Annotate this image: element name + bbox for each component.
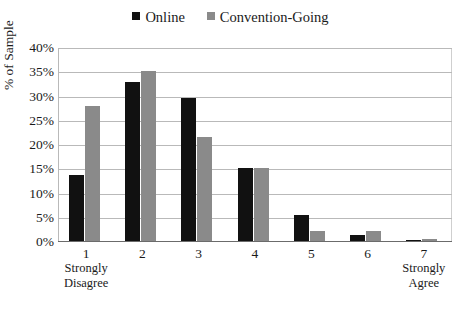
x-axis-tick-label-6: 6	[339, 246, 395, 261]
x-axis-sublabel-7-line1: Strongly	[396, 261, 452, 276]
bar-online-4	[238, 168, 253, 241]
legend-label-convention-going: Convention-Going	[220, 10, 329, 25]
x-axis-sublabel-7-line2: Agree	[396, 276, 452, 291]
bar-chart: Online Convention-Going % of Sample 40%3…	[0, 0, 461, 312]
bar-convention-going-3	[197, 137, 212, 241]
x-axis-group-4: 4	[227, 246, 283, 261]
bar-online-5	[294, 215, 309, 241]
x-axis-tick-label-3: 3	[171, 246, 227, 261]
black-square-marker-icon	[132, 12, 140, 20]
x-axis-tick-label-1: 1	[58, 246, 114, 261]
y-axis-tick-2: 30%	[16, 90, 54, 104]
plot-area	[58, 48, 452, 242]
y-axis-tick-8: 0%	[16, 235, 54, 249]
bar-online-7	[406, 240, 421, 241]
y-axis-tick-7: 5%	[16, 211, 54, 225]
gridline-30%	[58, 97, 452, 98]
y-axis-tick-5: 15%	[16, 162, 54, 176]
legend-label-online: Online	[145, 10, 184, 25]
x-axis-tick-label-4: 4	[227, 246, 283, 261]
y-axis-tick-6: 10%	[16, 187, 54, 201]
x-axis-line	[58, 241, 452, 242]
gridline-20%	[58, 145, 452, 146]
gray-square-marker-icon	[207, 12, 215, 20]
x-axis-tick-label-2: 2	[114, 246, 170, 261]
bar-online-6	[350, 235, 365, 241]
legend-item-online[interactable]: Online	[132, 10, 184, 25]
x-axis-group-6: 6	[339, 246, 395, 261]
legend-item-convention-going[interactable]: Convention-Going	[207, 10, 329, 25]
bar-convention-going-5	[310, 231, 325, 241]
x-axis-tick-label-7: 7	[396, 246, 452, 261]
bar-online-1	[69, 175, 84, 241]
y-axis-tick-0: 40%	[16, 41, 54, 55]
y-axis-tick-1: 35%	[16, 65, 54, 79]
x-axis-group-2: 2	[114, 246, 170, 261]
y-axis-tick-4: 20%	[16, 138, 54, 152]
gridline-25%	[58, 121, 452, 122]
chart-legend: Online Convention-Going	[0, 7, 461, 27]
y-axis-tick-3: 25%	[16, 114, 54, 128]
x-axis-sublabel-1-line2: Disagree	[58, 276, 114, 291]
x-axis-group-5: 5	[283, 246, 339, 261]
bar-convention-going-7	[422, 239, 437, 241]
bar-convention-going-6	[366, 231, 381, 241]
x-axis-group-7: 7StronglyAgree	[396, 246, 452, 291]
x-axis-group-1: 1StronglyDisagree	[58, 246, 114, 291]
bar-online-3	[181, 98, 196, 241]
y-axis-tick-labels: 40%35%30%25%20%15%10%5%0%	[16, 41, 54, 249]
bar-convention-going-1	[85, 106, 100, 241]
bar-convention-going-4	[254, 168, 269, 241]
gridline-40%	[58, 48, 452, 49]
bar-convention-going-2	[141, 71, 156, 241]
x-axis-sublabel-1-line1: Strongly	[58, 261, 114, 276]
bar-online-2	[125, 82, 140, 241]
x-axis-tick-labels: 1StronglyDisagree234567StronglyAgree	[58, 246, 452, 308]
y-axis-title: % of Sample	[1, 74, 17, 90]
x-axis-group-3: 3	[171, 246, 227, 261]
gridline-35%	[58, 72, 452, 73]
x-axis-tick-label-5: 5	[283, 246, 339, 261]
